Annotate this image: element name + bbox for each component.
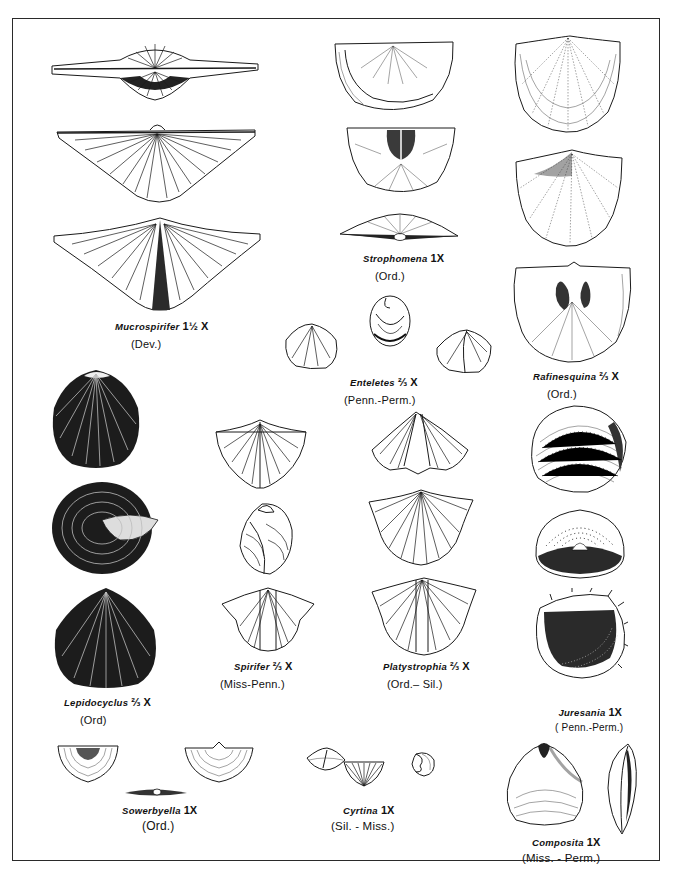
sowerbyella-ventral-view xyxy=(183,742,255,784)
platystrophia-side-view xyxy=(370,410,470,476)
sowerbyella-dorsal-view xyxy=(56,744,120,784)
lepidocyclus-ventral-view xyxy=(50,586,162,690)
specimen-name: Mucrospirifer xyxy=(115,321,180,332)
specimen-age: (Penn.-Perm.) xyxy=(344,394,418,407)
strophomena-interior-view xyxy=(345,124,457,198)
composita-side-view xyxy=(606,742,638,836)
specimen-scale: ⅔ X xyxy=(450,660,470,672)
spirifer-ventral-view xyxy=(220,586,316,652)
specimen-scale: 1½ X xyxy=(183,320,209,332)
specimen-name: Composita xyxy=(532,837,584,848)
composita-dorsal-view xyxy=(504,742,586,828)
strophomena-label: Strophomena1X (Ord.) xyxy=(363,248,444,283)
specimen-name: Juresania xyxy=(558,707,605,718)
specimen-name: Spirifer xyxy=(234,661,270,672)
sowerbyella-label: Sowerbyella1X (Ord.) xyxy=(122,800,197,834)
spirifer-label: Spirifer⅔ X (Miss-Penn.) xyxy=(234,656,292,691)
lepidocyclus-dorsal-view xyxy=(50,368,142,470)
mucrospirifer-ventral-view xyxy=(55,118,260,206)
specimen-name: Cyrtina xyxy=(343,805,378,816)
specimen-age: (Ord.– Sil.) xyxy=(387,678,470,691)
enteletes-dorsal-view xyxy=(435,326,493,374)
specimen-scale: ⅔ X xyxy=(131,696,151,708)
juresania-dorsal-view xyxy=(528,402,628,494)
juresania-anterior-view xyxy=(532,506,628,580)
rafinesquina-interior-view xyxy=(512,262,634,364)
enteletes-label: Enteletes⅔ X (Penn.-Perm.) xyxy=(350,372,418,407)
specimen-age: (Sil. - Miss.) xyxy=(331,820,394,833)
lepidocyclus-side-view xyxy=(50,480,162,576)
specimen-age: ( Penn.-Perm.) xyxy=(555,722,623,734)
specimen-scale: 1X xyxy=(381,804,394,816)
mucrospirifer-label: Mucrospirifer1½ X (Dev.) xyxy=(115,316,208,351)
specimen-age: (Ord) xyxy=(80,714,151,727)
enteletes-side-view xyxy=(368,294,412,348)
specimen-name: Platystrophia xyxy=(383,661,447,672)
specimen-age: (Dev.) xyxy=(131,338,208,351)
specimen-age: (Ord.) xyxy=(375,270,444,283)
spirifer-side-view xyxy=(238,500,294,576)
specimen-scale: 1X xyxy=(431,252,444,264)
specimen-age: (Miss. - Perm.) xyxy=(522,852,600,865)
specimen-name: Rafinesquina xyxy=(533,371,596,382)
platystrophia-label: Platystrophia⅔ X (Ord.– Sil.) xyxy=(383,656,470,691)
specimen-scale: 1X xyxy=(608,706,621,718)
specimen-name: Enteletes xyxy=(350,377,395,388)
mucrospirifer-dorsal-valve-view xyxy=(52,216,262,312)
rafinesquina-dorsal-view xyxy=(512,34,622,134)
cyrtina-posterior-view xyxy=(410,750,436,778)
cyrtina-ventral-view xyxy=(342,760,386,788)
platystrophia-ventral-view xyxy=(370,576,478,656)
spirifer-dorsal-view xyxy=(214,418,308,490)
sowerbyella-side-view xyxy=(123,786,189,798)
strophomena-dorsal-view xyxy=(333,38,455,114)
cyrtina-side-view xyxy=(305,746,347,772)
specimen-age: (Ord.) xyxy=(142,820,197,834)
mucrospirifer-dorsal-view xyxy=(50,38,260,104)
juresania-interior-view xyxy=(532,588,628,680)
specimen-scale: ⅔ X xyxy=(398,376,418,388)
specimen-age: (Miss-Penn.) xyxy=(220,678,292,691)
specimen-scale: 1X xyxy=(184,804,197,816)
specimen-name: Lepidocyclus xyxy=(64,697,128,708)
specimen-scale: 1X xyxy=(587,836,600,848)
enteletes-ventral-view xyxy=(282,322,340,370)
specimen-scale: ⅔ X xyxy=(273,660,293,672)
composita-label: Composita1X (Miss. - Perm.) xyxy=(532,832,600,866)
rafinesquina-label: Rafinesquina⅔ X (Ord.) xyxy=(533,366,619,401)
juresania-label: Juresania1X ( Penn.-Perm.) xyxy=(557,702,623,734)
platystrophia-dorsal-view xyxy=(367,488,475,566)
rafinesquina-ventral-view xyxy=(514,148,624,248)
cyrtina-label: Cyrtina1X (Sil. - Miss.) xyxy=(343,800,394,834)
specimen-scale: ⅔ X xyxy=(599,370,619,382)
specimen-name: Sowerbyella xyxy=(122,805,181,816)
specimen-age: (Ord.) xyxy=(547,388,619,401)
strophomena-side-view xyxy=(338,210,460,244)
specimen-name: Strophomena xyxy=(363,253,428,264)
lepidocyclus-label: Lepidocyclus⅔ X (Ord) xyxy=(64,692,151,727)
